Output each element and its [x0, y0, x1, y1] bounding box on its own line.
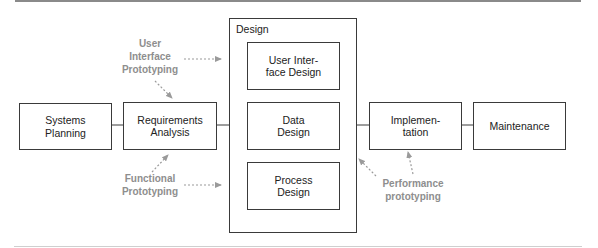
stage-label: Requirements Analysis	[137, 114, 202, 139]
substage-label: User Inter- face Design	[266, 54, 321, 79]
design-group-label: Design	[236, 23, 269, 35]
sdlc-diagram: Systems Planning Requirements Analysis D…	[0, 0, 598, 248]
bottom-rule	[14, 246, 582, 247]
ui-prototyping-label: User Interface Prototyping	[110, 37, 190, 76]
arrow-performance-prototyping-to-design	[359, 159, 376, 176]
substage-data-design: Data Design	[247, 102, 340, 150]
arrow-functional-prototyping-to-requirements	[152, 155, 168, 172]
stage-label: Implemen- tation	[391, 114, 441, 139]
stage-requirements-analysis: Requirements Analysis	[123, 102, 217, 150]
top-rule	[15, 0, 581, 2]
arrow-performance-prototyping-to-implementation	[408, 152, 413, 174]
arrow-ui-prototyping-to-requirements	[155, 81, 172, 98]
stage-maintenance: Maintenance	[473, 102, 566, 150]
substage-label: Data Design	[277, 114, 310, 139]
stage-label: Maintenance	[489, 120, 549, 133]
functional-prototyping-label: Functional Prototyping	[112, 172, 188, 198]
substage-label: Process Design	[275, 174, 313, 199]
stage-label: Systems Planning	[45, 114, 86, 139]
stage-systems-planning: Systems Planning	[19, 103, 112, 150]
performance-prototyping-label: Performance prototyping	[370, 177, 456, 203]
stage-implementation: Implemen- tation	[369, 102, 462, 150]
substage-ui-design: User Inter- face Design	[247, 42, 340, 90]
substage-process-design: Process Design	[247, 162, 340, 210]
